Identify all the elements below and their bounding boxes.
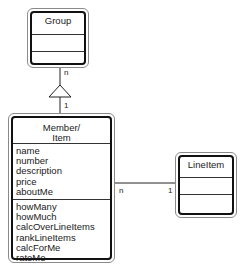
triangle-icon (49, 85, 71, 97)
class-group[interactable]: Group (27, 8, 89, 68)
attributes-section: name number description price aboutMe (13, 143, 110, 199)
attribute: aboutMe (16, 187, 110, 197)
class-member-item[interactable]: Member/ Item name number description pri… (8, 113, 115, 263)
operations-section: howMany howMuch calcOverLineItems rankLi… (13, 199, 110, 265)
operations-section (32, 51, 84, 63)
multiplicity-member-assoc-end: n (119, 187, 123, 195)
class-name-line2: Item (13, 133, 110, 143)
class-lineitem[interactable]: LineItem (175, 152, 237, 218)
attributes-section (32, 34, 84, 51)
multiplicity-member-end: 1 (64, 102, 68, 110)
operations-section (180, 194, 232, 213)
class-name: LineItem (180, 157, 232, 177)
class-name: Group (32, 13, 84, 34)
multiplicity-lineitem-end: 1 (168, 187, 172, 195)
operation: rateMe (16, 253, 110, 263)
multiplicity-group-end: n (64, 69, 68, 77)
attributes-section (180, 177, 232, 194)
class-name: Member/ Item (13, 118, 110, 143)
